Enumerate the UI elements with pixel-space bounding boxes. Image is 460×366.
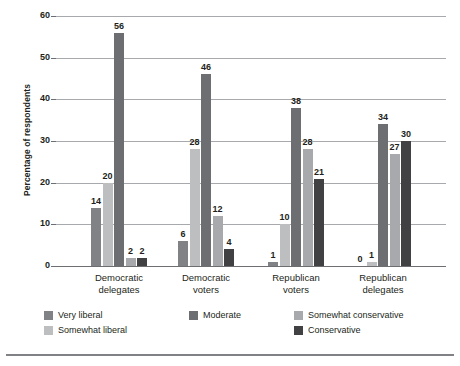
x-axis-group-label: Republicandelegates	[328, 272, 438, 296]
legend-label: Moderate	[203, 310, 241, 320]
legend-item[interactable]: Somewhat conservative	[294, 310, 404, 320]
bar	[268, 262, 278, 266]
legend-swatch	[44, 326, 53, 335]
legend-item[interactable]: Very liberal	[44, 310, 103, 320]
bar	[280, 224, 290, 266]
legend-swatch	[294, 326, 303, 335]
x-axis-group-label-line: Republican	[328, 272, 438, 284]
x-axis-line	[56, 266, 446, 267]
y-tick-label: 10	[22, 218, 50, 228]
bar	[114, 33, 124, 266]
y-tick-label: 20	[22, 177, 50, 187]
bar-value-label: 21	[306, 167, 332, 177]
bar	[201, 74, 211, 266]
bar	[178, 241, 188, 266]
bar	[390, 154, 400, 267]
bar-group: 62846124	[178, 16, 234, 266]
bar-value-label: 28	[295, 137, 321, 147]
bar	[314, 179, 324, 267]
chart-legend: Very liberalModerateSomewhat conservativ…	[44, 310, 444, 344]
legend-label: Somewhat conservative	[308, 310, 404, 320]
bar	[367, 262, 377, 266]
bar-group: 01342730	[355, 16, 411, 266]
legend-item[interactable]: Conservative	[294, 325, 361, 335]
y-tick-label: 0	[22, 260, 50, 270]
bottom-divider	[6, 354, 454, 356]
bar-group: 110382821	[268, 16, 324, 266]
plot-area: 142056226284612411038282101342730	[56, 16, 446, 266]
legend-label: Somewhat liberal	[58, 325, 127, 335]
bar	[91, 208, 101, 266]
x-axis-group-label-line: delegates	[328, 284, 438, 296]
bar-value-label: 4	[216, 237, 242, 247]
y-tick-label: 40	[22, 93, 50, 103]
bar-value-label: 56	[106, 21, 132, 31]
legend-swatch	[294, 311, 303, 320]
bar-value-label: 34	[370, 112, 396, 122]
legend-swatch	[44, 311, 53, 320]
bar-value-label: 30	[393, 129, 419, 139]
bar	[126, 258, 136, 266]
bar-group: 14205622	[91, 16, 147, 266]
bar	[401, 141, 411, 266]
bar	[224, 249, 234, 266]
y-tick-label: 60	[22, 10, 50, 20]
bar	[291, 108, 301, 266]
bar-value-label: 46	[193, 62, 219, 72]
y-tick-label: 30	[22, 135, 50, 145]
bar	[103, 183, 113, 266]
bar-value-label: 2	[129, 246, 155, 256]
legend-label: Very liberal	[58, 310, 103, 320]
bar-value-label: 38	[283, 96, 309, 106]
bar	[137, 258, 147, 266]
legend-label: Conservative	[308, 325, 361, 335]
legend-item[interactable]: Moderate	[189, 310, 241, 320]
legend-swatch	[189, 311, 198, 320]
legend-item[interactable]: Somewhat liberal	[44, 325, 127, 335]
bar-value-label: 12	[205, 204, 231, 214]
y-tick-label: 50	[22, 52, 50, 62]
bar-chart-figure: Percentage of respondents 0102030405060 …	[0, 0, 460, 366]
bar	[190, 149, 200, 266]
